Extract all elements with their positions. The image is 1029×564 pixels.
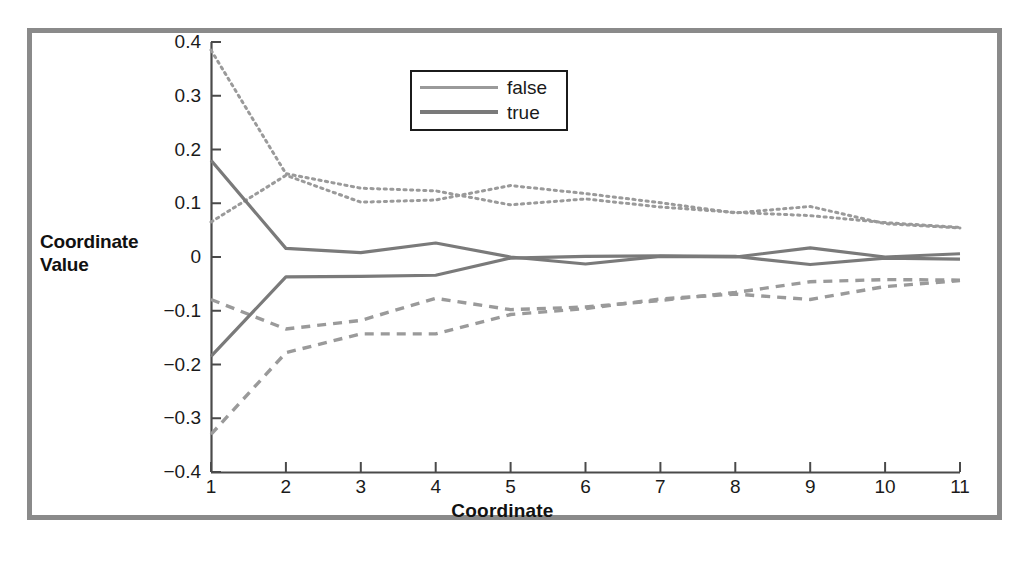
x-tick-label: 4 [416, 476, 456, 498]
legend-swatch-false [420, 86, 498, 89]
x-tick-label: 10 [865, 476, 905, 498]
legend-label-false: false [507, 78, 547, 97]
series-true-upper [211, 160, 960, 264]
x-tick-label: 9 [790, 476, 830, 498]
series-false-upper-band-low [211, 175, 960, 228]
legend-box: false true [410, 70, 568, 131]
figure-canvas: Coordinate Value 0.40.30.20.10−0.1−0.2−0… [0, 0, 1029, 564]
x-tick-label: 7 [640, 476, 680, 498]
series-false-lower-band-low [211, 281, 960, 435]
series-false-lower-band-high [211, 280, 960, 329]
legend-item-false: false [420, 75, 547, 99]
legend-item-true: true [420, 100, 540, 124]
x-tick-label: 3 [341, 476, 381, 498]
x-tick-label: 6 [566, 476, 606, 498]
series-false-upper-band-high [211, 50, 960, 227]
x-tick-label: 1 [191, 476, 231, 498]
x-tick-label: 2 [266, 476, 306, 498]
x-tick-label: 11 [940, 476, 980, 498]
legend-label-true: true [507, 103, 540, 122]
x-tick-label: 5 [491, 476, 531, 498]
legend-swatch-true [420, 110, 498, 114]
x-tick-label: 8 [715, 476, 755, 498]
data-series-group [211, 50, 960, 434]
